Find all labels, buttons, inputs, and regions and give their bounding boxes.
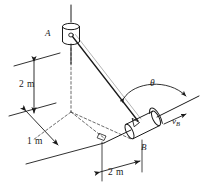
ground-plane-left-edge	[9, 103, 56, 116]
ground-plane-top-edge	[14, 53, 60, 66]
velocity-subscript: B	[176, 120, 180, 127]
inclined-guide-rod	[104, 96, 199, 143]
figure-container: A B 2 m 1 m 2 m θ vB	[0, 0, 210, 185]
label-dimension-depth: 1 m	[27, 137, 43, 147]
angle-theta-arc	[124, 84, 186, 98]
label-angle-theta: θ	[150, 79, 155, 89]
dashed-origin-to-b	[71, 112, 131, 139]
label-point-a: A	[45, 29, 51, 38]
ground-plane-left-riser	[9, 116, 26, 164]
label-dimension-vertical: 2 m	[19, 80, 35, 90]
right-angle-marker	[98, 134, 107, 141]
label-dimension-horizontal: 2 m	[108, 168, 124, 178]
connecting-bar	[73, 35, 142, 122]
label-velocity-vb: vB	[172, 117, 180, 126]
label-point-b: B	[141, 143, 147, 152]
mechanism-diagram	[0, 0, 210, 185]
collar-b	[123, 106, 163, 140]
